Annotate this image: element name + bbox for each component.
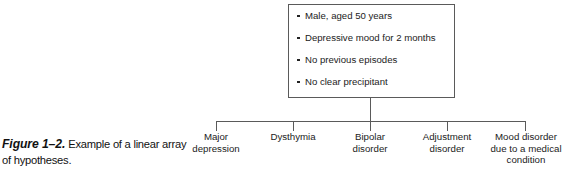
list-item-label: No previous episodes: [305, 54, 397, 65]
hypothesis-label-4: Adjustment disorder: [408, 131, 486, 154]
connector-trunk-line: [370, 98, 371, 121]
connector-branch-line-4: [447, 121, 448, 131]
hypothesis-label-2: Dysthymia: [254, 131, 332, 143]
connector-branch-line-3: [370, 121, 371, 131]
hypothesis-label-line: Dysthymia: [254, 131, 332, 143]
list-item-label: No clear precipitant: [305, 76, 388, 87]
hypothesis-label-line: depression: [177, 143, 255, 155]
hypothesis-label-line: Adjustment: [408, 131, 486, 143]
hypothesis-label-line: disorder: [408, 143, 486, 155]
case-bullet-list: Male, aged 50 years Depressive mood for …: [297, 10, 450, 88]
list-item: Depressive mood for 2 months: [297, 32, 450, 44]
hypothesis-label-line: disorder: [331, 143, 409, 155]
hypothesis-label-line: Major: [177, 131, 255, 143]
hypothesis-label-line: due to a medical: [484, 143, 568, 155]
hypothesis-label-line: Mood disorder: [484, 131, 568, 143]
figure-linear-array-of-hypotheses: Figure 1–2.Example of a linear array of …: [0, 0, 582, 177]
bullet-dot-icon: [297, 37, 300, 40]
bullet-dot-icon: [297, 15, 300, 18]
connector-branch-line-1: [216, 121, 217, 131]
connector-branch-line-2: [293, 121, 294, 131]
list-item-label: Male, aged 50 years: [305, 10, 392, 21]
list-item: No previous episodes: [297, 54, 450, 66]
hypothesis-label-1: Major depression: [177, 131, 255, 154]
figure-caption: Figure 1–2.Example of a linear array of …: [2, 136, 188, 168]
hypothesis-label-3: Bipolar disorder: [331, 131, 409, 154]
hypothesis-label-line: condition: [484, 154, 568, 166]
connector-branch-line-5: [525, 121, 526, 131]
bullet-dot-icon: [297, 59, 300, 62]
hypothesis-label-5: Mood disorder due to a medical condition: [484, 131, 568, 166]
bullet-dot-icon: [297, 81, 300, 84]
figure-caption-label: Figure 1–2.: [2, 137, 68, 151]
list-item-label: Depressive mood for 2 months: [305, 32, 436, 43]
list-item: Male, aged 50 years: [297, 10, 450, 22]
connector-bus-line: [216, 121, 526, 122]
list-item: No clear precipitant: [297, 76, 450, 88]
hypothesis-label-line: Bipolar: [331, 131, 409, 143]
case-presentation-box: Male, aged 50 years Depressive mood for …: [288, 4, 455, 98]
